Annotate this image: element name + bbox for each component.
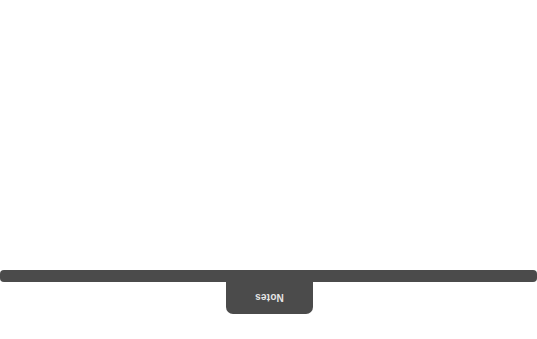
notes-tab-button[interactable]: Notes	[226, 280, 313, 314]
notes-tab-label: Notes	[255, 292, 284, 303]
empty-canvas: Notes	[0, 0, 537, 339]
